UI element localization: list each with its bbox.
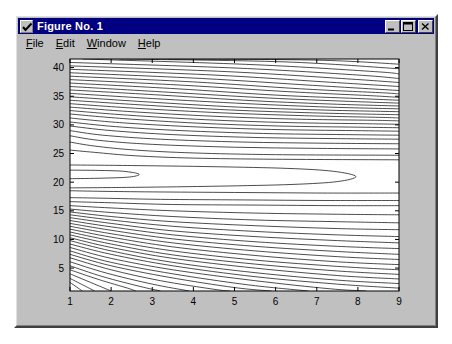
minimize-button[interactable] — [385, 20, 400, 33]
y-tick-label: 30 — [53, 119, 65, 130]
x-tick-label: 5 — [232, 296, 238, 307]
x-tick-label: 4 — [191, 296, 197, 307]
x-tick-label: 8 — [355, 296, 361, 307]
contour-plot[interactable]: 123456789510152025303540 — [18, 51, 434, 324]
y-tick-label: 10 — [53, 234, 65, 245]
maximize-button[interactable] — [401, 20, 416, 33]
window-controls — [384, 20, 433, 33]
y-tick-label: 35 — [53, 91, 65, 102]
x-tick-label: 2 — [108, 296, 114, 307]
menu-item-help-rest: elp — [146, 37, 161, 49]
x-tick-label: 3 — [149, 296, 155, 307]
menu-item-window[interactable]: Window — [82, 36, 133, 50]
screen: Figure No. 1 — [0, 0, 452, 344]
y-tick-label: 20 — [53, 177, 65, 188]
window-title: Figure No. 1 — [37, 19, 384, 33]
x-tick-label: 1 — [67, 296, 73, 307]
menu-item-file[interactable]: File — [21, 36, 51, 50]
menu-item-window-rest: indow — [97, 37, 126, 49]
menu-item-edit-rest: dit — [63, 37, 75, 49]
close-button[interactable] — [418, 20, 433, 33]
menu-item-help[interactable]: Help — [133, 36, 168, 50]
x-tick-label: 7 — [314, 296, 320, 307]
y-tick-label: 40 — [53, 62, 65, 73]
y-tick-label: 15 — [53, 205, 65, 216]
menu-bar: File Edit Window Help — [18, 35, 434, 50]
x-tick-label: 9 — [396, 296, 402, 307]
menu-item-file-rest: ile — [33, 37, 44, 49]
menu-item-edit[interactable]: Edit — [51, 36, 82, 50]
y-tick-label: 5 — [58, 263, 64, 274]
figure-window: Figure No. 1 — [14, 14, 438, 328]
figure-canvas[interactable]: 123456789510152025303540 — [18, 51, 434, 324]
y-tick-label: 25 — [53, 148, 65, 159]
matlab-figure-icon[interactable] — [20, 20, 33, 33]
x-tick-label: 6 — [273, 296, 279, 307]
title-bar[interactable]: Figure No. 1 — [18, 18, 434, 34]
